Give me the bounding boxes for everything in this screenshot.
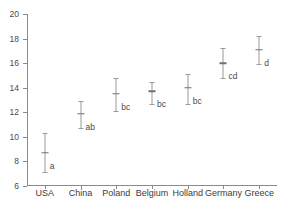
mean-marker (184, 87, 191, 89)
y-axis-labels: 68101214161820 (0, 14, 24, 186)
y-tick (23, 161, 27, 162)
significance-letter-china: ab (86, 122, 95, 132)
y-tick (23, 88, 27, 89)
y-tick (23, 63, 27, 64)
whisker-cap-upper (257, 36, 262, 37)
whisker-cap-upper (114, 78, 119, 79)
y-tick (23, 112, 27, 113)
y-tick (23, 14, 27, 15)
significance-letter-usa: a (50, 161, 55, 171)
mean-marker (220, 62, 227, 64)
whisker-cap-lower (257, 64, 262, 65)
significance-letter-belgium: bc (157, 99, 166, 109)
whisker-cap-lower (185, 104, 190, 105)
whisker-cap-lower (42, 172, 47, 173)
whisker-cap-upper (42, 133, 47, 134)
mean-marker (41, 152, 48, 154)
whisker-line (80, 101, 81, 128)
mean-marker (256, 49, 263, 51)
y-tick-label: 10 (10, 132, 19, 142)
y-tick-label: 12 (10, 107, 19, 117)
plot-area: aabbcbcbccdd (27, 14, 277, 186)
significance-letter-greece: d (264, 58, 269, 68)
whisker-cap-lower (114, 111, 119, 112)
whisker-line (187, 74, 188, 103)
y-axis-line (27, 14, 28, 186)
whisker-cap-upper (221, 48, 226, 49)
whisker-line (152, 82, 153, 104)
y-tick-label: 6 (14, 181, 19, 191)
y-tick-label: 16 (10, 58, 19, 68)
x-tick-label-greece: Greece (244, 188, 274, 198)
whisker-cap-lower (150, 104, 155, 105)
x-tick-label-usa: USA (36, 188, 55, 198)
whisker-cap-upper (185, 74, 190, 75)
y-tick-label: 14 (10, 83, 19, 93)
significance-letter-poland: bc (121, 102, 130, 112)
whisker-cap-upper (78, 101, 83, 102)
whisker-cap-lower (221, 78, 226, 79)
whisker-cap-upper (150, 82, 155, 83)
x-tick-label-poland: Poland (102, 188, 130, 198)
y-tick-label: 8 (14, 156, 19, 166)
mean-marker (113, 93, 120, 95)
y-tick-label: 18 (10, 34, 19, 44)
significance-letter-holland: bc (193, 96, 202, 106)
y-tick (23, 186, 27, 187)
y-tick (23, 39, 27, 40)
significance-letter-germany: cd (228, 71, 237, 81)
mean-marker (77, 113, 84, 115)
x-tick-label-belgium: Belgium (136, 188, 169, 198)
x-tick-label-germany: Germany (205, 188, 242, 198)
error-bar-chart: 68101214161820 aabbcbcbccdd USAChinaPola… (0, 0, 284, 208)
mean-marker (149, 91, 156, 93)
x-axis-labels: USAChinaPolandBelgiumHollandGermanyGreec… (27, 188, 277, 204)
y-tick (23, 137, 27, 138)
x-tick-label-holland: Holland (172, 188, 203, 198)
x-tick-label-china: China (69, 188, 93, 198)
whisker-cap-lower (78, 128, 83, 129)
y-tick-label: 20 (10, 9, 19, 19)
